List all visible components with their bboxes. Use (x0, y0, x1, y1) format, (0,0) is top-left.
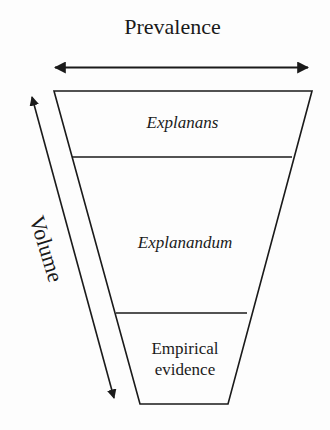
empirical-evidence-text: Empirical evidence (145, 338, 225, 380)
layer-explanandum-label: Explanandum (80, 233, 290, 253)
layer-empirical-evidence-label: Empirical evidence (120, 338, 250, 380)
layer-explanans-label: Explanans (60, 113, 305, 133)
prevalence-label: Prevalence (0, 14, 330, 40)
